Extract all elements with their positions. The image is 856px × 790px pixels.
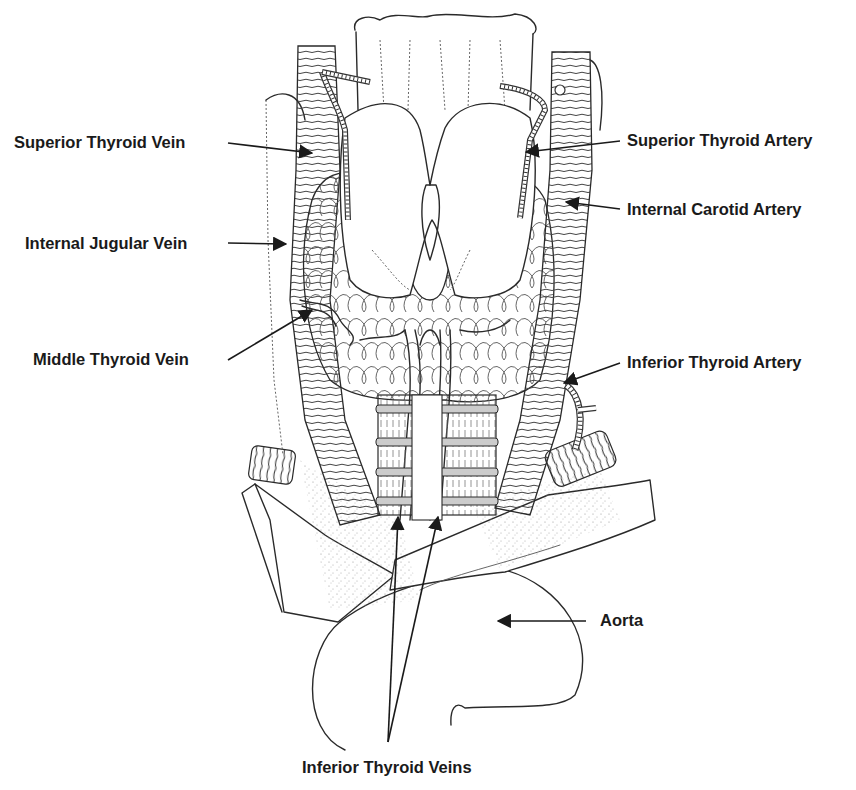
left-outline xyxy=(266,100,283,455)
arrow-inferior-thyroid-artery xyxy=(564,363,620,383)
label-superior-thyroid-artery: Superior Thyroid Artery xyxy=(627,132,813,149)
thyroid-gland-shape xyxy=(304,103,554,401)
thyroid-anatomy-diagram xyxy=(0,0,856,790)
trachea-shape xyxy=(376,395,498,520)
label-superior-thyroid-vein: Superior Thyroid Vein xyxy=(14,134,185,151)
arrow-internal-jugular-vein xyxy=(228,243,286,244)
label-internal-carotid-artery: Internal Carotid Artery xyxy=(627,201,802,218)
label-internal-jugular-vein: Internal Jugular Vein xyxy=(25,235,187,252)
label-inferior-thyroid-veins: Inferior Thyroid Veins xyxy=(302,759,472,776)
left-subclavian-vessel xyxy=(248,445,296,485)
larynx-shape xyxy=(355,14,536,110)
label-aorta: Aorta xyxy=(600,612,643,629)
label-inferior-thyroid-artery: Inferior Thyroid Artery xyxy=(627,354,802,371)
label-middle-thyroid-vein: Middle Thyroid Vein xyxy=(33,351,189,368)
